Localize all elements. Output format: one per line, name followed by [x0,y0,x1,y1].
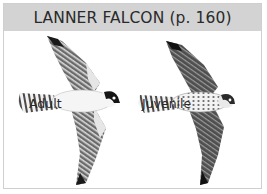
adult-label: Adult [29,96,62,111]
juvenile-label: Juvenile [142,96,191,111]
plate-header: LANNER FALCON (p. 160) [4,4,261,31]
falcon-juvenile-illustration [136,35,251,190]
species-plate: LANNER FALCON (p. 160) Adult [3,3,262,189]
plate-title: LANNER FALCON (p. 160) [33,9,231,27]
